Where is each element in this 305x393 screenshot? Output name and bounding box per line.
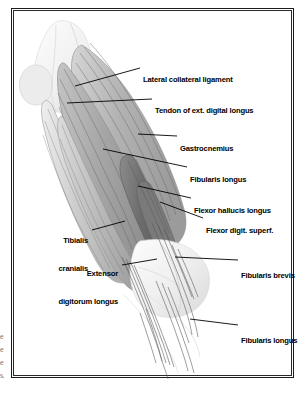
leader-line-fibularis-longus-lower (190, 319, 238, 325)
anatomical-figure: e e e s. (0, 0, 305, 393)
illustration-plate: Lateral collateral ligament Tendon of ex… (11, 8, 294, 378)
label-line: digitorum longus (12, 297, 118, 306)
label-line: Fibularis brevis (241, 271, 295, 280)
label-extensor-digitorum-longus: Extensor digitorum longus (12, 250, 118, 325)
label-line: Fibularis longus (241, 336, 297, 345)
lateral-condyle-shape (20, 65, 53, 105)
label-flexor-digit-superf: Flexor digit. superf. (206, 207, 273, 254)
label-line: Extensor (12, 269, 118, 278)
label-fibularis-longus-lower: Fibularis longus (241, 317, 297, 364)
label-line: Tendon of ext. digital longus (155, 106, 253, 115)
label-line: Lateral collateral ligament (143, 75, 233, 84)
label-fibularis-brevis: Fibularis brevis (241, 252, 295, 299)
label-line: Fibularis longus (190, 175, 246, 184)
label-line: Tibialis (12, 236, 88, 245)
label-line: Gastrocnemius (180, 144, 233, 153)
label-line: Flexor digit. superf. (206, 226, 273, 235)
